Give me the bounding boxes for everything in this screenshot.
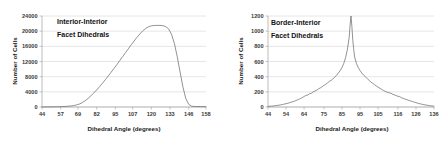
y-tick-label-600: 600 bbox=[254, 59, 263, 65]
chart-panel-right: 445464758595105116126136 020040060080010… bbox=[224, 0, 448, 142]
x-tick-label-95: 95 bbox=[112, 111, 118, 117]
x-tick-label-107: 107 bbox=[128, 111, 137, 117]
x-tick-label-133: 133 bbox=[165, 111, 174, 117]
x-tick-label-54: 54 bbox=[283, 111, 290, 117]
x-tick-label-105: 105 bbox=[373, 111, 382, 117]
gridlines-left bbox=[42, 16, 206, 107]
x-tick-labels-left: 4457698295107120133146158 bbox=[39, 111, 211, 117]
x-axis-title-left: Dihedral Angle (degrees) bbox=[87, 125, 160, 132]
gridlines-right bbox=[268, 16, 434, 107]
y-tick-label-0: 0 bbox=[260, 104, 263, 110]
x-axis-title-right: Dihedral Angle (degrees) bbox=[315, 125, 388, 132]
y-axis-title-left: Number of Cells bbox=[11, 37, 18, 85]
x-tick-label-136: 136 bbox=[429, 111, 438, 117]
y-tick-label-400: 400 bbox=[254, 74, 263, 80]
x-tick-label-146: 146 bbox=[184, 111, 193, 117]
y-tick-label-800: 800 bbox=[254, 43, 263, 49]
x-tick-label-126: 126 bbox=[411, 111, 420, 117]
x-tick-label-57: 57 bbox=[58, 111, 64, 117]
y-tick-label-24000: 24000 bbox=[22, 13, 38, 19]
y-tick-label-16000: 16000 bbox=[22, 43, 38, 49]
chart-annotation-line-2-right: Facet Dihedrals bbox=[271, 32, 323, 39]
x-tick-labels-right: 445464758595105116126136 bbox=[265, 111, 439, 117]
dihedral-angle-figure: 4457698295107120133146158 04000800012000… bbox=[0, 0, 448, 142]
chart-annotation-line-2-left: Facet Dihedrals bbox=[57, 31, 109, 38]
y-tick-label-8000: 8000 bbox=[25, 74, 37, 80]
chart-svg-left: 4457698295107120133146158 04000800012000… bbox=[0, 0, 224, 142]
x-tick-label-116: 116 bbox=[393, 111, 402, 117]
x-tick-label-95: 95 bbox=[357, 111, 363, 117]
y-tick-label-1200: 1200 bbox=[251, 13, 263, 19]
series-line-right bbox=[268, 16, 434, 106]
x-tick-label-75: 75 bbox=[321, 111, 327, 117]
x-tick-label-158: 158 bbox=[201, 111, 210, 117]
y-tick-label-20000: 20000 bbox=[22, 28, 38, 34]
y-tick-label-1000: 1000 bbox=[251, 28, 263, 34]
y-tick-label-0: 0 bbox=[34, 104, 37, 110]
y-tick-label-12000: 12000 bbox=[22, 59, 38, 65]
x-tick-label-64: 64 bbox=[301, 111, 308, 117]
y-tick-labels-right: 020040060080010001200 bbox=[251, 13, 263, 110]
y-tick-label-200: 200 bbox=[254, 89, 263, 95]
x-tick-label-85: 85 bbox=[339, 111, 345, 117]
y-tick-labels-left: 04000800012000160002000024000 bbox=[22, 13, 38, 110]
chart-annotation-line-1-right: Border-Interior bbox=[271, 19, 321, 26]
chart-panel-left: 4457698295107120133146158 04000800012000… bbox=[0, 0, 224, 142]
x-tick-label-44: 44 bbox=[39, 111, 46, 117]
x-tick-label-44: 44 bbox=[265, 111, 272, 117]
y-tick-label-4000: 4000 bbox=[25, 89, 37, 95]
y-axis-title-right: Number of Cells bbox=[237, 37, 244, 85]
chart-svg-right: 445464758595105116126136 020040060080010… bbox=[224, 0, 448, 142]
chart-annotation-line-1-left: Interior-Interior bbox=[57, 18, 108, 25]
x-tick-label-69: 69 bbox=[75, 111, 81, 117]
x-tick-label-82: 82 bbox=[94, 111, 100, 117]
x-tick-label-120: 120 bbox=[147, 111, 156, 117]
